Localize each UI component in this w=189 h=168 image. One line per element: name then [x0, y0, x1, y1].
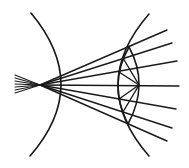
outgoing-ray: [40, 43, 172, 85]
outgoing-ray: [40, 85, 167, 141]
lens-chord: [119, 72, 139, 85]
lens-chord: [123, 58, 139, 85]
outgoing-ray: [40, 85, 172, 128]
outgoing-ray: [40, 30, 167, 85]
incoming-ray-fan: [15, 75, 40, 93]
lens-chord: [119, 85, 139, 99]
ray-diagram: [0, 0, 189, 168]
lens-chord: [123, 85, 139, 112]
